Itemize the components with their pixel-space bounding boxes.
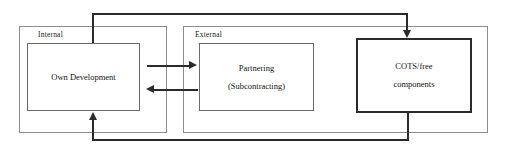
node-partnering-line-2: (Subcontracting)	[228, 82, 285, 91]
connector-cots-to-own-riser	[92, 119, 94, 141]
node-own-development-line-1: Own Development	[51, 73, 115, 82]
connector-cots-to-own-bottom-run	[92, 139, 409, 141]
node-partnering-line-1: Partnering	[239, 64, 274, 73]
group-external-label: External	[195, 31, 222, 39]
connector-own-to-partnering-line	[147, 65, 191, 67]
node-cots-free-components[interactable]: COTS/free components	[356, 38, 472, 113]
connector-own-to-cots-top-run	[92, 13, 408, 15]
node-partnering[interactable]: Partnering (Subcontracting)	[199, 43, 314, 111]
connector-own-to-cots-arrowhead	[403, 30, 411, 38]
diagram-canvas: Internal External Own Development Partne…	[0, 0, 508, 152]
connector-own-to-cots-riser	[92, 13, 94, 43]
node-own-development[interactable]: Own Development	[27, 43, 140, 111]
node-cots-free-components-line-2: components	[393, 80, 434, 89]
node-cots-free-components-line-1: COTS/free	[395, 62, 432, 71]
connector-partnering-to-own-arrowhead	[146, 85, 154, 93]
group-internal-label: Internal	[38, 31, 63, 39]
connector-cots-to-own-arrowhead	[89, 112, 97, 120]
connector-own-to-cots-drop	[406, 13, 408, 31]
connector-own-to-partnering-arrowhead	[189, 61, 197, 69]
connector-partnering-to-own-line	[154, 89, 198, 91]
connector-cots-to-own-drop	[407, 113, 409, 141]
